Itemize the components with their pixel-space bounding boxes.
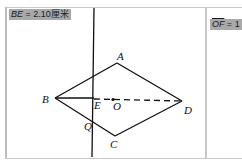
segment-dc[interactable] xyxy=(115,101,182,136)
vertical-line[interactable] xyxy=(92,8,94,157)
label-q: Q xyxy=(84,120,92,132)
segment-ad[interactable] xyxy=(117,63,182,101)
geometry-diagram: B A D C E O Q xyxy=(0,0,242,162)
segment-ab[interactable] xyxy=(55,63,117,98)
label-a: A xyxy=(116,50,124,62)
label-e: E xyxy=(93,99,101,111)
label-b: B xyxy=(42,93,49,105)
dashed-segment-ed[interactable] xyxy=(94,99,182,101)
label-c: C xyxy=(110,138,118,150)
label-o: O xyxy=(113,100,121,112)
label-d: D xyxy=(183,104,192,116)
